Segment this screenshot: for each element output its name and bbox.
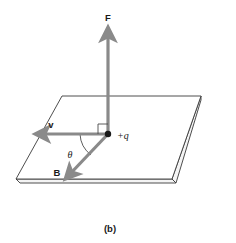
theta-label: θ [68, 149, 73, 160]
magnetic-field-label: B [54, 167, 61, 178]
force-label: F [105, 12, 111, 23]
charge-label: +q [117, 130, 129, 141]
plane-front-edge [16, 179, 176, 183]
vector-diagram-svg: F v B +q θ (b) [0, 0, 236, 243]
physics-figure: F v B +q θ (b) [0, 0, 236, 243]
charge-dot [105, 131, 111, 137]
velocity-label: v [48, 119, 54, 130]
figure-caption: (b) [104, 223, 116, 234]
